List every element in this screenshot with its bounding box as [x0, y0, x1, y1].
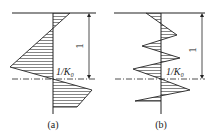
dimension-label: 1 — [186, 47, 198, 53]
level-label: 1/K₀ — [166, 66, 184, 77]
figure-caption: (b) — [155, 119, 167, 131]
figure-b: 1 1/K₀ (b) — [114, 13, 205, 131]
diagram-canvas: 1 1/K₀ (a) 1 1/K₀ (b) — [0, 0, 216, 139]
figure-a: 1 1/K₀ (a) — [10, 13, 96, 131]
hatched-region-left — [10, 28, 53, 79]
hatched-region-lower — [53, 79, 92, 107]
dimension-label: 1 — [73, 43, 85, 49]
level-label: 1/K₀ — [56, 66, 74, 77]
figure-caption: (a) — [47, 119, 58, 131]
